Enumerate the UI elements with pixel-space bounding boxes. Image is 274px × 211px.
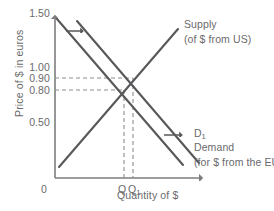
x-axis-title: Quantity of $ (117, 190, 178, 201)
origin-label: 0 (41, 184, 47, 195)
y-tick-0-50: 0.50 (20, 117, 50, 128)
supply-demand-chart: Price of $ in euros 1.50 1.00 0.90 0.80 … (0, 0, 274, 211)
y-tick-1-50: 1.50 (20, 8, 50, 19)
y-tick-0-80: 0.80 (20, 85, 50, 96)
chart-canvas (0, 0, 274, 211)
y-tick-0-90: 0.90 (20, 73, 50, 84)
demand-shifted-label: D1 (194, 128, 206, 139)
demand-curve-original (57, 19, 183, 165)
demand-shifted-subscript: 1 (202, 132, 206, 141)
demand-curve-shifted (77, 21, 199, 163)
supply-curve-note: (of $ from US) (184, 34, 251, 45)
y-tick-1-00: 1.00 (20, 62, 50, 73)
supply-curve-label: Supply (184, 19, 217, 30)
demand-shifted-symbol: D (194, 127, 202, 139)
demand-curve-label: Demand (194, 142, 234, 153)
demand-curve-note: (for $ from the EU) (194, 157, 274, 168)
supply-curve (59, 29, 178, 167)
